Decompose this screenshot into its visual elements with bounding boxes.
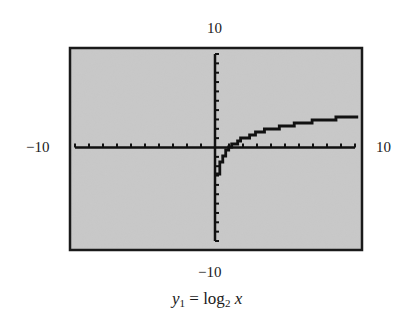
caption-func-sub: 2 [225, 297, 231, 309]
caption-func: log [203, 289, 225, 308]
function-caption: y1 = log2 x [172, 290, 242, 309]
caption-equals: = [185, 289, 203, 308]
calculator-screen [0, 0, 405, 326]
caption-arg: x [235, 289, 243, 308]
caption-var: y [172, 289, 180, 308]
